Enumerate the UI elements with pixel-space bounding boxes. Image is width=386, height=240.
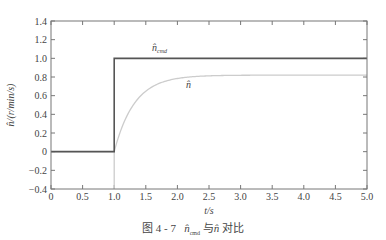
series-label-estimate: n̂ bbox=[186, 79, 191, 90]
y-tick-label: 0.2 bbox=[35, 128, 48, 139]
y-tick-label: 0.8 bbox=[35, 72, 48, 83]
axis-ticks bbox=[51, 21, 367, 189]
x-tick-label: 4.0 bbox=[298, 191, 311, 202]
tick-labels: 00.51.01.52.02.53.03.54.04.55.0−0.4−0.20… bbox=[29, 16, 373, 203]
x-tick-label: 1.0 bbox=[108, 191, 121, 202]
plot-frame bbox=[51, 21, 367, 189]
caption-series-a-sub: cmd bbox=[190, 230, 200, 236]
series-estimate-line bbox=[51, 75, 367, 189]
caption-suffix: 对比 bbox=[222, 222, 244, 234]
series-label-cmd: n̂cmd bbox=[152, 42, 168, 54]
y-tick-label: 1.2 bbox=[35, 34, 48, 45]
x-tick-label: 5.0 bbox=[361, 191, 374, 202]
x-axis-label: t/s bbox=[204, 205, 214, 216]
y-tick-label: 0.6 bbox=[35, 90, 48, 101]
y-tick-label: −0.2 bbox=[29, 165, 47, 176]
x-tick-label: 2.0 bbox=[171, 191, 184, 202]
x-tick-label: 3.5 bbox=[266, 191, 279, 202]
y-tick-label: 1.4 bbox=[35, 16, 48, 27]
y-tick-label: 0.4 bbox=[35, 109, 48, 120]
y-axis-label: n̂/(r/min/s) bbox=[5, 83, 17, 126]
y-tick-label: 1.0 bbox=[35, 53, 48, 64]
x-tick-label: 4.5 bbox=[329, 191, 342, 202]
chart: 00.51.01.52.02.53.03.54.04.55.0−0.4−0.20… bbox=[0, 0, 386, 240]
x-tick-label: 2.5 bbox=[203, 191, 216, 202]
y-tick-label: 0 bbox=[42, 146, 47, 157]
caption-series-b: n̂ bbox=[214, 222, 220, 234]
x-tick-label: 0 bbox=[49, 191, 54, 202]
series-lines bbox=[51, 58, 367, 189]
series-cmd-line bbox=[51, 58, 367, 151]
x-tick-label: 1.5 bbox=[140, 191, 153, 202]
x-tick-label: 0.5 bbox=[76, 191, 89, 202]
x-tick-label: 3.0 bbox=[234, 191, 247, 202]
figure-caption: 图 4 - 7 n̂cmd 与n̂ 对比 bbox=[0, 219, 386, 236]
figure-number: 图 4 - 7 bbox=[142, 222, 176, 234]
y-tick-label: −0.4 bbox=[29, 184, 47, 195]
caption-connector: 与 bbox=[203, 222, 214, 234]
